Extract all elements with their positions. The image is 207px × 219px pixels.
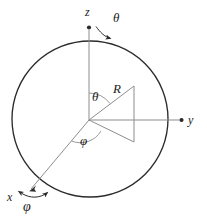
theta-top-label: θ — [113, 10, 120, 25]
x-axis-line — [31, 120, 89, 189]
figure-canvas: z y x θ θ R φ φ — [0, 0, 207, 219]
theta-sweep-arrow — [96, 27, 111, 39]
phi-bottom-label: φ — [23, 199, 31, 214]
spherical-coordinates-figure: z y x θ θ R φ φ — [0, 0, 207, 219]
z-axis-arrow-dot — [87, 25, 91, 29]
y-axis-label: y — [187, 113, 194, 127]
phi-sweep-arrow — [22, 193, 48, 198]
radius-label: R — [112, 81, 121, 96]
x-axis-label: x — [6, 190, 13, 204]
z-axis-label: z — [84, 5, 90, 19]
phi-inner-label: φ — [80, 133, 87, 148]
theta-inner-label: θ — [92, 89, 99, 104]
cone-lower-edge — [89, 120, 134, 142]
y-axis-arrow-dot — [179, 118, 183, 122]
